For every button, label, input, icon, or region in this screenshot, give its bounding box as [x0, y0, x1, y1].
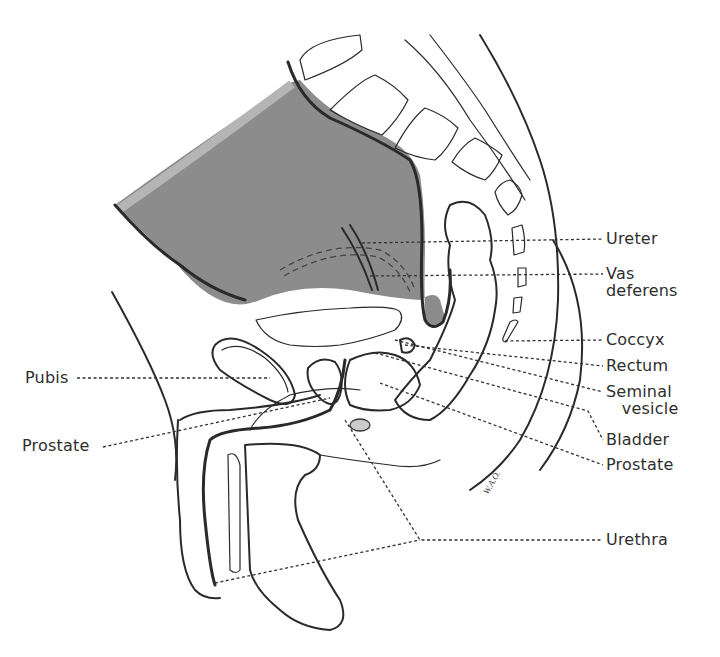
label-coccyx: Coccyx — [606, 331, 665, 348]
urethra-penis — [177, 360, 440, 630]
label-ureter: Ureter — [606, 230, 658, 247]
bladder-region — [115, 62, 450, 327]
label-prostate-left: Prostate — [22, 437, 90, 454]
pubis-bone — [212, 339, 295, 404]
label-pubis: Pubis — [25, 369, 68, 386]
label-vas-deferens: Vas deferens — [606, 265, 678, 299]
leader-lines — [77, 239, 603, 583]
label-urethra: Urethra — [606, 531, 668, 548]
label-seminal-vesicle: Seminal vesicle — [606, 383, 678, 417]
seminal-vesicle-structure — [256, 307, 415, 353]
label-bladder: Bladder — [606, 431, 669, 448]
label-prostate-right: Prostate — [606, 456, 674, 473]
label-rectum: Rectum — [606, 357, 668, 374]
artist-initials: W.A.O. — [481, 469, 502, 496]
anatomy-diagram: W.A.O. — [0, 0, 720, 657]
